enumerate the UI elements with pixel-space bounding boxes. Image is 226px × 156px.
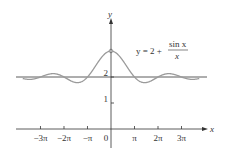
- y-ticks: 12: [104, 68, 115, 104]
- x-tick-label: π: [132, 133, 137, 143]
- svg-text:x: x: [174, 51, 179, 61]
- x-ticks: −3π−2π−π0π2π3π: [33, 126, 186, 143]
- y-tick-label: 2: [104, 68, 109, 78]
- x-tick-label: 0: [104, 133, 109, 143]
- x-axis-label: x: [209, 124, 214, 134]
- equation-label: y = 2 + sin x x: [136, 39, 188, 61]
- x-tick-label: 2π: [153, 133, 163, 143]
- svg-text:sin x: sin x: [169, 39, 187, 49]
- x-tick-label: 3π: [177, 133, 187, 143]
- svg-text:y = 2 +: y = 2 +: [136, 46, 162, 56]
- x-tick-label: −3π: [33, 133, 48, 143]
- x-axis-arrow-icon: [202, 127, 208, 131]
- x-tick-label: −2π: [57, 133, 72, 143]
- chart: −3π−2π−π0π2π3π 12 x y y = 2 + sin x x: [0, 0, 226, 156]
- x-tick-label: −π: [83, 133, 93, 143]
- y-tick-label: 1: [104, 94, 109, 104]
- y-axis-label: y: [107, 9, 112, 19]
